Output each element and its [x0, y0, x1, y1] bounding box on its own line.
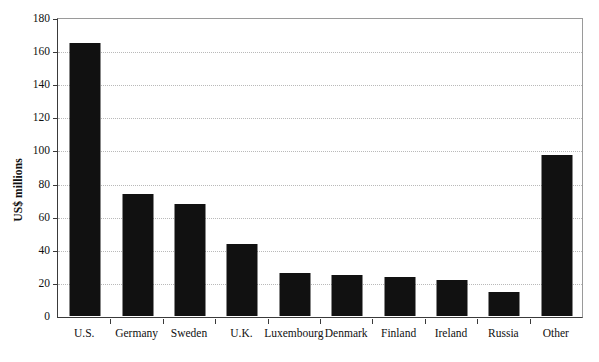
bar-slot: [373, 20, 425, 316]
bar-slot: [164, 20, 216, 316]
x-axis-tick-label: Ireland: [435, 327, 468, 340]
x-axis-tick-label: Sweden: [171, 327, 207, 340]
y-axis-tick-mark: [53, 218, 57, 219]
y-axis-tick-mark: [53, 284, 57, 285]
bar: [384, 277, 415, 316]
x-axis-tick-mark: [268, 319, 269, 324]
x-axis-tick-mark: [372, 319, 373, 324]
bar: [436, 280, 467, 316]
y-axis-tick-mark: [53, 52, 57, 53]
y-axis-tick-mark: [53, 85, 57, 86]
bar-slot: [478, 20, 530, 316]
x-axis-tick-mark: [215, 319, 216, 324]
plot-area: [57, 18, 583, 318]
bar: [489, 292, 520, 316]
y-axis-tick-label: 120: [4, 113, 50, 125]
bars: [59, 20, 581, 316]
x-axis-tick-label: Other: [543, 327, 569, 340]
y-axis-tick-label: 160: [4, 46, 50, 58]
bar-slot: [426, 20, 478, 316]
y-axis-tick-label: 20: [4, 278, 50, 290]
x-axis-tick-mark: [425, 319, 426, 324]
x-axis-tick-label: Germany: [115, 327, 158, 340]
x-axis-tick-mark: [320, 319, 321, 324]
y-axis-tick-label: 60: [4, 212, 50, 224]
x-axis-tick-label: Finland: [381, 327, 416, 340]
x-axis-tick-label: Denmark: [325, 327, 368, 340]
bar: [70, 43, 101, 316]
bar-chart: US$ millions 020406080100120140160180 U.…: [0, 0, 599, 362]
y-axis-tick-mark: [53, 151, 57, 152]
bar: [279, 273, 310, 316]
bar: [332, 275, 363, 316]
x-axis-tick-mark: [110, 319, 111, 324]
x-axis-tick-label: U.S.: [74, 327, 94, 340]
bar-slot: [531, 20, 583, 316]
y-axis-tick-mark: [53, 19, 57, 20]
bar-slot: [321, 20, 373, 316]
bar: [541, 155, 572, 316]
y-axis-tick-label: 140: [4, 79, 50, 91]
bar: [227, 244, 258, 316]
x-axis-tick-label: Russia: [488, 327, 519, 340]
bar: [122, 194, 153, 317]
bar-slot: [269, 20, 321, 316]
x-axis-tick-mark: [477, 319, 478, 324]
y-axis-tick-label: 40: [4, 245, 50, 257]
x-axis-tick-label: Luxembourg: [264, 327, 323, 340]
y-axis-tick-mark: [53, 185, 57, 186]
y-axis-tick-label: 180: [4, 13, 50, 25]
x-axis-tick-mark: [530, 319, 531, 324]
y-axis-tick-label: 100: [4, 146, 50, 158]
y-axis-tick-mark: [53, 118, 57, 119]
y-axis-tick-label: 0: [4, 311, 50, 323]
y-axis-tick-mark: [53, 251, 57, 252]
y-axis-tick-label: 80: [4, 179, 50, 191]
x-axis-tick-label: U.K.: [230, 327, 252, 340]
bar-slot: [216, 20, 268, 316]
bar-slot: [111, 20, 163, 316]
bar-slot: [59, 20, 111, 316]
bar: [174, 204, 205, 316]
x-axis-tick-mark: [163, 319, 164, 324]
